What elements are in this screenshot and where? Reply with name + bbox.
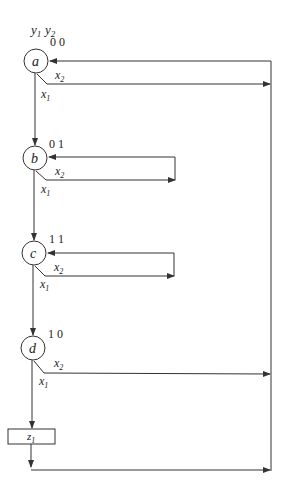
a-x2-branch xyxy=(37,74,270,84)
b-loop xyxy=(49,157,175,180)
c-loop xyxy=(48,253,174,276)
c-x2-label: x2 xyxy=(53,260,63,276)
state-flow-diagram: y1 y2 a 0 0 x2 x1 b 0 1 x2 x1 c 1 1 x2 x… xyxy=(0,0,285,496)
b-x1-label: x1 xyxy=(40,182,50,198)
b-x2-label: x2 xyxy=(54,164,64,180)
state-a-label: a xyxy=(32,54,39,69)
c-x1-label: x1 xyxy=(39,277,49,293)
d-x2-branch xyxy=(34,361,270,374)
state-c-code: 1 1 xyxy=(49,232,64,246)
state-b-label: b xyxy=(31,151,38,166)
d-x2-label: x2 xyxy=(53,356,63,372)
state-a-code: 0 0 xyxy=(50,35,65,49)
state-d-label: d xyxy=(29,341,37,356)
state-b-code: 0 1 xyxy=(49,137,64,151)
header-y1: y1 xyxy=(29,22,41,39)
d-x1-label: x1 xyxy=(38,374,48,390)
a-x2-label: x2 xyxy=(54,68,64,84)
state-c-label: c xyxy=(30,246,37,261)
state-d-code: 1 0 xyxy=(48,327,63,341)
a-x1-label: x1 xyxy=(40,87,50,103)
